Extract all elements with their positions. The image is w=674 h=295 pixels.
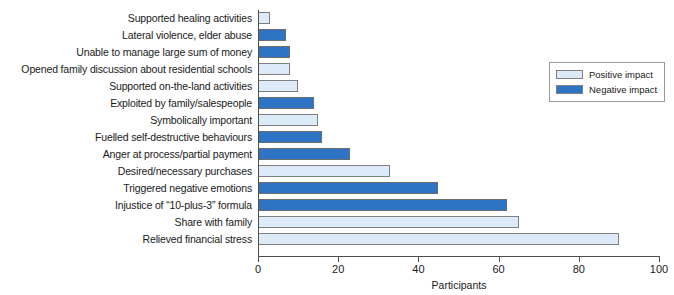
y-axis-label: Unable to manage large sum of money	[0, 47, 252, 58]
bar-positive	[258, 80, 298, 92]
bar-positive	[258, 233, 619, 245]
bar-negative	[258, 46, 290, 58]
x-tick-mark	[579, 257, 580, 262]
bar-fill	[258, 114, 318, 126]
y-axis-label: Lateral violence, elder abuse	[0, 30, 252, 41]
x-tick-label: 100	[650, 263, 668, 276]
y-axis-label: Fuelled self-destructive behaviours	[0, 132, 252, 143]
x-tick-mark	[258, 257, 259, 262]
bar-positive	[258, 165, 390, 177]
x-tick-mark	[659, 257, 660, 262]
x-tick-label: 40	[412, 263, 424, 276]
bar-fill	[258, 233, 619, 245]
bar-negative	[258, 97, 314, 109]
bar-negative	[258, 131, 322, 143]
bar-fill	[258, 165, 390, 177]
y-axis-label: Anger at process/partial payment	[0, 149, 252, 160]
legend-swatch-positive-icon	[556, 70, 583, 79]
bar-fill	[258, 182, 438, 194]
chart-legend: Positive impact Negative impact	[549, 62, 665, 102]
y-axis-line	[258, 10, 259, 257]
horizontal-bar-chart: Supported healing activitiesLateral viol…	[0, 0, 674, 295]
y-axis-label: Injustice of “10-plus-3” formula	[0, 200, 252, 211]
y-axis-label: Supported on-the-land activities	[0, 81, 252, 92]
bar-positive	[258, 12, 270, 24]
x-tick-mark	[499, 257, 500, 262]
bar-positive	[258, 216, 519, 228]
bar-fill	[258, 46, 290, 58]
y-axis-label: Relieved financial stress	[0, 234, 252, 245]
bar-negative	[258, 148, 350, 160]
x-tick-label: 0	[255, 263, 261, 276]
x-axis-title: Participants	[258, 279, 660, 291]
x-tick-mark	[418, 257, 419, 262]
y-axis-label: Opened family discussion about residenti…	[0, 64, 252, 75]
y-axis-category-labels: Supported healing activitiesLateral viol…	[0, 10, 252, 256]
bar-fill	[258, 199, 507, 211]
legend-label-positive: Positive impact	[589, 69, 653, 80]
bar-negative	[258, 29, 286, 41]
y-axis-label: Exploited by family/salespeople	[0, 98, 252, 109]
y-axis-label: Triggered negative emotions	[0, 183, 252, 194]
bar-fill	[258, 148, 350, 160]
bar-fill	[258, 216, 519, 228]
bar-negative	[258, 199, 507, 211]
y-axis-label: Symbolically important	[0, 115, 252, 126]
bar-fill	[258, 80, 298, 92]
y-axis-label: Desired/necessary purchases	[0, 166, 252, 177]
legend-item-negative-impact: Negative impact	[556, 83, 657, 96]
plot-area	[258, 10, 659, 256]
y-axis-label: Supported healing activities	[0, 13, 252, 24]
x-tick-label: 20	[332, 263, 344, 276]
y-axis-label: Share with family	[0, 217, 252, 228]
bar-positive	[258, 114, 318, 126]
bar-fill	[258, 63, 290, 75]
bar-fill	[258, 29, 286, 41]
bar-fill	[258, 131, 322, 143]
bar-positive	[258, 63, 290, 75]
x-tick-label: 60	[492, 263, 504, 276]
legend-swatch-negative-icon	[556, 85, 583, 94]
bar-fill	[258, 97, 314, 109]
bar-negative	[258, 182, 438, 194]
x-tick-mark	[338, 257, 339, 262]
legend-label-negative: Negative impact	[589, 84, 657, 95]
x-tick-label: 80	[573, 263, 585, 276]
x-axis-line	[258, 256, 660, 257]
bar-fill	[258, 12, 270, 24]
legend-item-positive-impact: Positive impact	[556, 68, 657, 81]
